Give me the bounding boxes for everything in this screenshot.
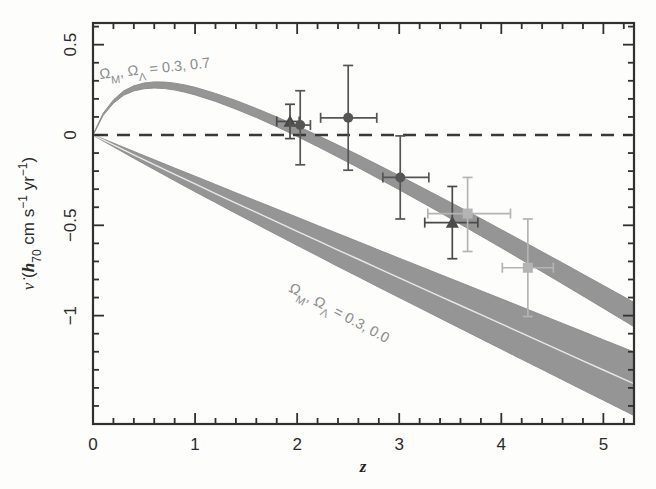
x-tick-label: 1 xyxy=(190,435,199,454)
marker-circle xyxy=(343,113,353,123)
x-axis-label: z xyxy=(359,457,367,476)
marker-square xyxy=(523,263,533,273)
y-tick-label: −0.5 xyxy=(61,209,80,243)
marker-circle xyxy=(395,172,405,182)
x-tick-label: 3 xyxy=(394,435,403,454)
marker-square xyxy=(463,209,473,219)
y-tick-label: 0.5 xyxy=(61,33,80,57)
y-tick-label: 0 xyxy=(61,130,80,139)
y-tick-label: −1 xyxy=(61,306,80,325)
x-tick-label: 0 xyxy=(88,435,97,454)
figure-container: 012345 0.50−0.5−1 z ν̇ (h70 cm s−1 yr−1)… xyxy=(0,0,656,489)
x-tick-label: 5 xyxy=(599,435,608,454)
chart-canvas: 012345 0.50−0.5−1 z ν̇ (h70 cm s−1 yr−1)… xyxy=(0,0,656,489)
x-tick-label: 2 xyxy=(292,435,301,454)
x-tick-label: 4 xyxy=(497,435,506,454)
marker-circle xyxy=(295,120,305,130)
